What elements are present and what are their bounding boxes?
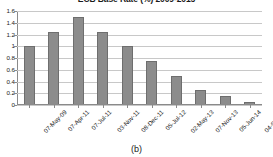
y-axis-tick-label: 1.4 xyxy=(1,20,15,26)
figure-caption: (b) xyxy=(0,144,273,154)
chart-title: ECB Base Rate (%) 2009-2015 xyxy=(0,0,273,4)
x-axis-tick xyxy=(78,105,79,108)
x-axis-tick xyxy=(225,105,226,108)
x-axis-tick-label: 07-May-09 xyxy=(43,109,69,135)
x-axis-tick-label: 08-Dec-11 xyxy=(141,109,166,134)
x-axis-tick-label: 03-Nov-11 xyxy=(116,109,141,134)
bar xyxy=(97,32,108,105)
bar xyxy=(146,61,157,105)
x-axis-tick-label: 07-Jul-11 xyxy=(91,109,114,132)
y-axis-tick-label: 1 xyxy=(1,43,15,49)
bar xyxy=(171,76,182,105)
y-axis-tick-label: 0 xyxy=(1,102,15,108)
x-axis-tick xyxy=(29,105,30,108)
y-axis-tick-label: 1.2 xyxy=(1,32,15,38)
bar xyxy=(48,32,59,105)
x-axis-tick xyxy=(176,105,177,108)
x-axis-tick-label: 05-Jul-12 xyxy=(164,109,187,132)
figure-panel: ECB Base Rate (%) 2009-2015 00.20.40.60.… xyxy=(0,0,273,157)
y-axis-tick-label: 1.6 xyxy=(1,8,15,14)
plot-area xyxy=(17,11,262,105)
x-axis-tick xyxy=(250,105,251,108)
gridline xyxy=(17,23,262,24)
x-axis-tick-label: 07-Apr-11 xyxy=(67,109,91,133)
y-axis-tick-label: 0.6 xyxy=(1,67,15,73)
x-axis-tick xyxy=(201,105,202,108)
x-axis-tick xyxy=(54,105,55,108)
bar xyxy=(24,46,35,105)
y-axis-tick-label: 0.2 xyxy=(1,90,15,96)
y-axis-tick-label: 0.8 xyxy=(1,55,15,61)
gridline xyxy=(17,11,262,12)
bar xyxy=(73,17,84,105)
x-axis-tick xyxy=(127,105,128,108)
x-axis-tick-label: 04-Sep-14 xyxy=(263,109,273,134)
y-axis-tick-label: 0.4 xyxy=(1,79,15,85)
x-axis-tick-label: 07-Nov-13 xyxy=(214,109,239,134)
x-axis-tick xyxy=(103,105,104,108)
x-axis-tick xyxy=(152,105,153,108)
x-axis-tick-label: 02-May-13 xyxy=(190,109,216,135)
bar xyxy=(195,90,206,105)
x-axis-tick-label: 05-Jun-14 xyxy=(238,109,262,133)
bar xyxy=(122,46,133,105)
